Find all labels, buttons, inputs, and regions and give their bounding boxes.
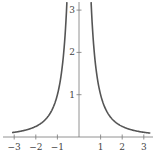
y-tick-label: 3: [69, 5, 75, 15]
curve-left-branch: [12, 2, 67, 132]
y-tick-label: 1: [69, 90, 75, 100]
curves: [12, 2, 150, 133]
x-tick-label: 2: [119, 142, 125, 152]
curve-right-branch: [91, 2, 150, 133]
function-plot: −3−2−1123123: [0, 0, 156, 160]
x-tick-label: 3: [141, 142, 147, 152]
x-tick-label: −1: [51, 142, 64, 152]
x-tick-label: −2: [29, 142, 42, 152]
x-tick-label: 1: [98, 142, 104, 152]
axes: [3, 2, 153, 140]
x-tick-label: −3: [8, 142, 22, 152]
y-tick-label: 2: [69, 47, 75, 57]
